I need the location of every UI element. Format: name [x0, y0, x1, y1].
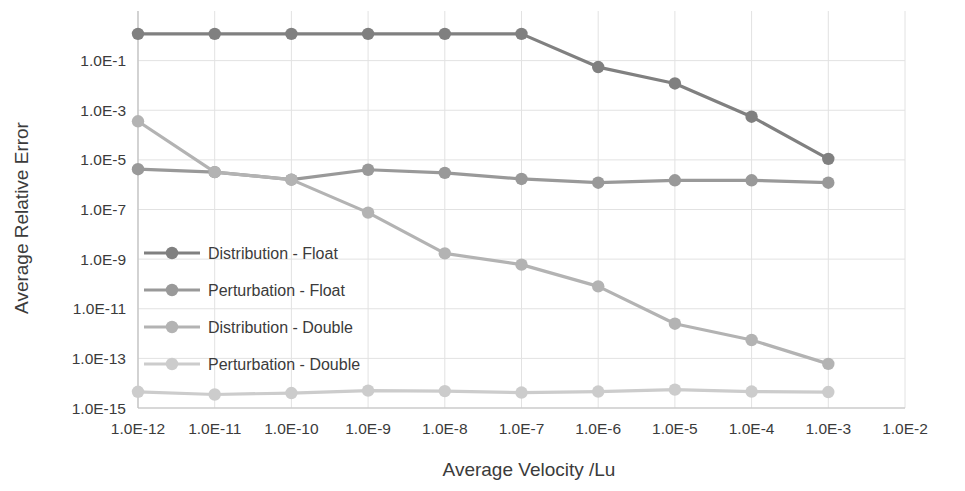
- data-point: [515, 386, 527, 398]
- legend-marker-icon: [166, 247, 178, 259]
- data-point: [515, 28, 527, 40]
- data-point: [669, 383, 681, 395]
- x-tick-label: 1.0E-11: [188, 420, 241, 437]
- data-point: [592, 61, 604, 73]
- y-tick-label: 1.0E-13: [72, 350, 126, 367]
- data-point: [669, 174, 681, 186]
- data-point: [822, 153, 834, 165]
- data-point: [745, 110, 757, 122]
- legend-label: Perturbation - Float: [208, 282, 346, 299]
- x-tick-label: 1.0E-12: [111, 420, 165, 437]
- data-point: [362, 384, 374, 396]
- data-point: [362, 164, 374, 176]
- data-point: [285, 173, 297, 185]
- y-tick-label: 1.0E-9: [80, 251, 126, 268]
- legend-marker-icon: [166, 321, 178, 333]
- data-point: [822, 177, 834, 189]
- data-point: [209, 166, 221, 178]
- data-point: [745, 385, 757, 397]
- x-tick-label: 1.0E-3: [805, 420, 851, 437]
- data-point: [515, 173, 527, 185]
- data-point: [439, 385, 451, 397]
- data-point: [439, 247, 451, 259]
- x-axis-title: Average Velocity /Lu: [443, 459, 616, 480]
- y-tick-label: 1.0E-5: [80, 151, 126, 168]
- chart-container: 1.0E-121.0E-111.0E-101.0E-91.0E-81.0E-71…: [0, 0, 965, 491]
- data-point: [592, 385, 604, 397]
- data-point: [592, 177, 604, 189]
- data-point: [745, 174, 757, 186]
- data-point: [362, 206, 374, 218]
- data-point: [669, 77, 681, 89]
- data-point: [669, 317, 681, 329]
- x-tick-label: 1.0E-9: [345, 420, 391, 437]
- data-point: [439, 28, 451, 40]
- y-axis-title: Average Relative Error: [11, 121, 32, 314]
- x-tick-label: 1.0E-7: [499, 420, 545, 437]
- line-chart: 1.0E-121.0E-111.0E-101.0E-91.0E-81.0E-71…: [0, 0, 965, 491]
- data-point: [439, 167, 451, 179]
- x-tick-label: 1.0E-5: [652, 420, 698, 437]
- y-tick-label: 1.0E-11: [73, 300, 126, 317]
- legend-marker-icon: [166, 358, 178, 370]
- data-point: [592, 280, 604, 292]
- data-point: [822, 386, 834, 398]
- y-tick-label: 1.0E-15: [72, 400, 126, 417]
- data-point: [132, 386, 144, 398]
- data-point: [745, 334, 757, 346]
- data-point: [132, 115, 144, 127]
- data-point: [209, 28, 221, 40]
- data-point: [515, 258, 527, 270]
- legend-label: Distribution - Float: [208, 245, 338, 262]
- y-tick-label: 1.0E-7: [80, 201, 126, 218]
- chart-background: [0, 0, 965, 491]
- data-point: [362, 28, 374, 40]
- data-point: [132, 163, 144, 175]
- y-tick-label: 1.0E-1: [80, 52, 126, 69]
- data-point: [285, 387, 297, 399]
- data-point: [132, 28, 144, 40]
- data-point: [209, 388, 221, 400]
- legend-label: Perturbation - Double: [208, 356, 360, 373]
- data-point: [822, 358, 834, 370]
- x-tick-label: 1.0E-2: [882, 420, 928, 437]
- legend-label: Distribution - Double: [208, 319, 353, 336]
- x-tick-label: 1.0E-10: [264, 420, 319, 437]
- x-tick-label: 1.0E-6: [575, 420, 621, 437]
- y-tick-label: 1.0E-3: [80, 102, 126, 119]
- legend-marker-icon: [166, 284, 178, 296]
- x-tick-labels: 1.0E-121.0E-111.0E-101.0E-91.0E-81.0E-71…: [111, 420, 928, 437]
- data-point: [285, 28, 297, 40]
- x-tick-label: 1.0E-8: [422, 420, 468, 437]
- x-tick-label: 1.0E-4: [729, 420, 775, 437]
